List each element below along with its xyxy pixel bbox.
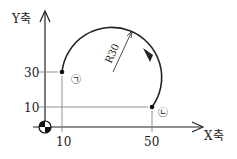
cnc-arc-diagram: R30 ㉠ ㉡ 30 10 10 50 Y축 X축 <box>0 0 237 159</box>
start-point <box>60 70 65 75</box>
x-axis-label: X축 <box>204 129 224 143</box>
y-axis-label: Y축 <box>11 12 31 26</box>
direction-arrow-icon <box>143 48 153 62</box>
y-tick-10: 10 <box>24 101 39 115</box>
end-point <box>150 105 155 110</box>
y-tick-30: 30 <box>24 66 39 80</box>
start-point-label: ㉠ <box>71 74 81 85</box>
diagram-svg: R30 ㉠ ㉡ 30 10 10 50 Y축 X축 <box>0 0 237 159</box>
end-point-label: ㉡ <box>158 107 168 118</box>
x-tick-10: 10 <box>56 135 71 149</box>
radius-label: R30 <box>103 42 122 65</box>
x-tick-50: 50 <box>144 135 159 149</box>
origin-symbol-icon <box>39 121 51 133</box>
arc-path <box>62 27 162 107</box>
